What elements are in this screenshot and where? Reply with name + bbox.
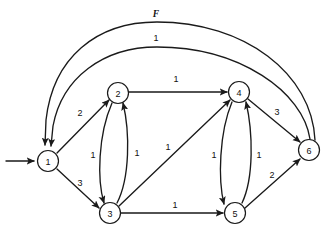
edge-capacity-label: 1 [134,148,139,158]
edge-5-to-4 [242,102,251,203]
edge-5-to-6 [245,159,300,208]
node-label-5: 5 [232,209,237,219]
edge-capacity-label: 1 [90,150,95,160]
edge-capacity-label: 2 [77,108,82,118]
edge-capacity-label: 1 [256,150,261,160]
edges-layer [6,22,315,213]
node-label-1: 1 [45,157,50,167]
edge-capacity-label: 1 [172,200,177,210]
edge-capacity-label: 1 [211,150,216,160]
graph-node-4[interactable]: 4 [229,82,250,103]
nodes-layer: 123456 [38,82,320,224]
edge-capacity-label: 3 [77,178,82,188]
edge-4-to-5 [220,102,232,204]
edge-3-to-2 [117,103,128,203]
node-label-2: 2 [115,89,120,99]
graph-node-5[interactable]: 5 [225,203,246,224]
graph-node-2[interactable]: 2 [108,83,129,104]
node-label-6: 6 [306,146,311,156]
edge-2-to-3 [100,103,112,203]
edge-capacity-label: 1 [173,74,178,84]
edge-capacity-label: 3 [274,107,279,117]
graph-node-3[interactable]: 3 [100,203,121,224]
edge-4-to-6 [248,99,300,142]
graph-node-6[interactable]: 6 [299,140,320,161]
graph-node-1[interactable]: 1 [38,151,59,172]
edge-capacity-label: 1 [165,142,170,152]
node-label-3: 3 [107,209,112,219]
edge-6-to-1-inner [51,47,310,146]
flow-value-label: F [152,9,160,19]
network-graph-canvas: 23111111132F1 123456 [0,0,331,233]
edge-1-to-3 [57,169,99,208]
flow-network-diagram: 23111111132F1 123456 [0,0,331,233]
node-label-4: 4 [236,88,241,98]
edge-capacity-label: 2 [269,170,274,180]
edge-capacity-label: 1 [153,33,158,43]
